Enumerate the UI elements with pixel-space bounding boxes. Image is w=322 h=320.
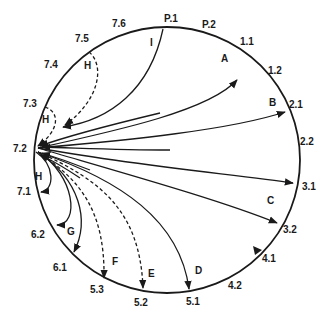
arrow-from-31	[42, 147, 170, 150]
label-7-4: 7.4	[44, 59, 58, 70]
label-3-2: 3.2	[283, 224, 297, 235]
label-7-6: 7.6	[112, 18, 126, 29]
label-6-1: 6.1	[53, 262, 67, 273]
arrow-label-e: E	[148, 268, 155, 279]
arrow-label-i: I	[150, 37, 153, 48]
position-labels: P.1 P.2 1.1 1.2 2.1 2.2 3.1 3.2 4.1 4.2 …	[13, 13, 316, 308]
label-5-3: 5.3	[90, 284, 104, 295]
label-4-2: 4.2	[228, 280, 242, 291]
label-7-5: 7.5	[75, 33, 89, 44]
arrow-H-73	[38, 107, 55, 146]
arrow-label-h1: H	[84, 60, 91, 71]
arrow-H-75	[65, 52, 98, 125]
label-6-2: 6.2	[31, 229, 45, 240]
label-2-2: 2.2	[300, 136, 314, 147]
label-7-1: 7.1	[17, 186, 31, 197]
label-7-3: 7.3	[23, 98, 37, 109]
arrow-from-21	[40, 113, 160, 146]
transition-diagram: P.1 P.2 1.1 1.2 2.1 2.2 3.1 3.2 4.1 4.2 …	[0, 0, 322, 320]
label-3-1: 3.1	[302, 181, 316, 192]
label-7-2: 7.2	[13, 143, 27, 154]
state-circle	[34, 27, 300, 293]
arrow-label-h2: H	[42, 114, 49, 125]
label-2-1: 2.1	[289, 99, 303, 110]
arrow-label-a: A	[221, 53, 228, 64]
arrow-F	[38, 152, 104, 278]
label-4-1: 4.1	[262, 253, 276, 264]
arrow-label-c: C	[267, 195, 274, 206]
arrow-C-32	[38, 148, 277, 223]
arrow-label-b: B	[269, 97, 276, 108]
label-5-1: 5.1	[186, 296, 200, 307]
arrow-label-d: D	[195, 265, 202, 276]
arrow-label-h3: H	[35, 171, 42, 182]
arrow-label-f: F	[112, 256, 118, 267]
arrow-C-31	[38, 148, 293, 183]
label-1-1: 1.1	[240, 36, 254, 47]
label-5-2: 5.2	[134, 297, 148, 308]
arrow-label-g: G	[67, 226, 75, 237]
label-p1: P.1	[164, 13, 178, 24]
label-p2: P.2	[202, 19, 216, 30]
label-1-2: 1.2	[268, 65, 282, 76]
